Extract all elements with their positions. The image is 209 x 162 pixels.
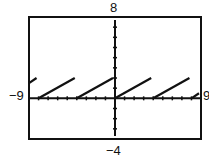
sawtooth-segment bbox=[77, 78, 113, 98]
sawtooth-segment bbox=[29, 78, 37, 83]
graph-window bbox=[0, 0, 209, 162]
sawtooth-segment bbox=[153, 78, 189, 98]
sawtooth-segment bbox=[39, 78, 75, 98]
sawtooth-segment bbox=[115, 78, 151, 98]
